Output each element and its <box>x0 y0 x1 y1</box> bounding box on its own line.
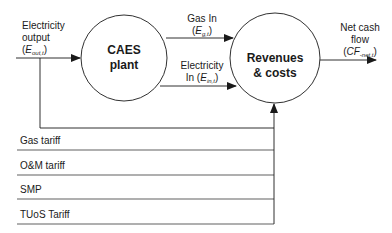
gas-in-label: Gas In (Eg,t) <box>180 13 224 40</box>
revenues-line1: Revenues <box>238 51 312 66</box>
input-tuos-tariff: TUoS Tariff <box>20 209 70 221</box>
caes-plant-label: CAES plant <box>94 43 154 73</box>
revenues-line2: & costs <box>238 66 312 81</box>
caes-line1: CAES <box>94 43 154 58</box>
electricity-in-label: Electricity In (Ein,t) <box>172 60 232 87</box>
caes-line2: plant <box>94 58 154 73</box>
input-smp: SMP <box>20 184 42 196</box>
revenues-costs-label: Revenues & costs <box>238 51 312 81</box>
input-om-tariff: O&M tariff <box>20 160 65 172</box>
net-cash-flow-label: Net cash flow (CF-net,t) <box>330 22 390 61</box>
input-gas-tariff: Gas tariff <box>20 135 60 147</box>
electricity-output-label: Electricity output (Eout,t) <box>22 20 65 59</box>
